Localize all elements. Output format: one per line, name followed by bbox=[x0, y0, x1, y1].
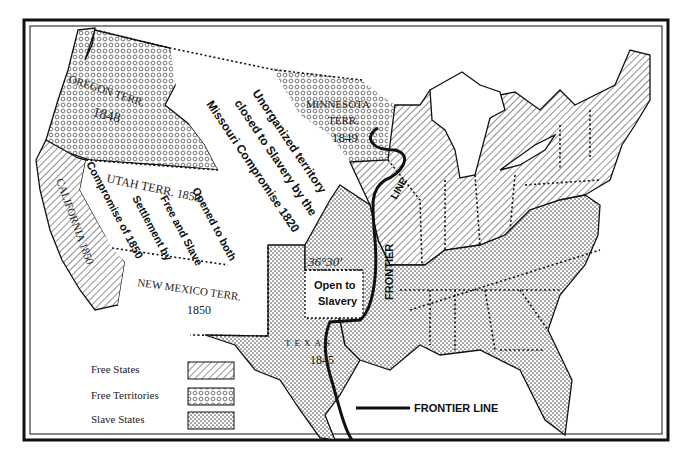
texas-label: TEXAS bbox=[285, 338, 334, 348]
legend-dots-swatch bbox=[188, 412, 234, 429]
open-slavery-line-2: Slavery bbox=[318, 295, 358, 307]
new-mexico-year: 1850 bbox=[187, 303, 211, 317]
texas-year: 1845 bbox=[310, 353, 334, 367]
minnesota-year: 1849 bbox=[332, 130, 358, 145]
latitude-label: 36°30' bbox=[307, 254, 342, 269]
region-free-states bbox=[350, 50, 650, 265]
region-open-to-slavery bbox=[305, 270, 363, 318]
legend-slave-states-label: Slave States bbox=[91, 413, 144, 425]
legend-free-territories-label: Free Territories bbox=[91, 389, 159, 401]
minnesota-name2: TERR. bbox=[328, 114, 359, 126]
legend-frontier-label: FRONTIER LINE bbox=[414, 402, 498, 414]
frontier-vertical-label: FRONTIER bbox=[383, 244, 395, 300]
open-slavery-line-1: Open to bbox=[314, 279, 356, 291]
legend-free-states-label: Free States bbox=[91, 363, 140, 375]
legend-hatch-swatch bbox=[188, 362, 234, 379]
legend-circles-swatch bbox=[188, 388, 234, 405]
minnesota-name: MINNESOTA bbox=[306, 98, 370, 110]
historical-map: OREGON TERR. 1848 MINNESOTA TERR. 1849 U… bbox=[0, 0, 691, 469]
